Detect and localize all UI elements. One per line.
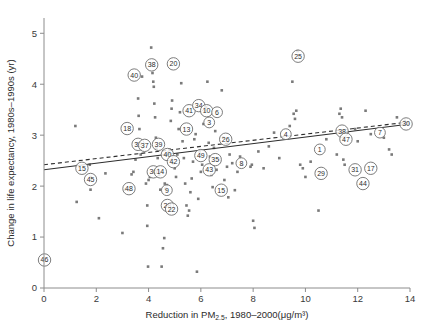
x-tick-label: 10 [300, 293, 311, 304]
data-point [292, 112, 295, 115]
label-text: 8 [239, 160, 243, 167]
data-point [160, 265, 163, 268]
labeled-data-point: 9 [161, 185, 172, 196]
data-point [288, 125, 291, 128]
labeled-data-point: 8 [236, 158, 247, 169]
x-tick-label: 2 [94, 293, 99, 304]
label-text: 15 [217, 187, 225, 194]
data-point [197, 198, 200, 201]
labeled-data-point: 48 [123, 182, 135, 194]
data-point [341, 116, 344, 119]
data-point [175, 176, 178, 179]
data-point [211, 186, 214, 189]
data-point [226, 165, 229, 168]
x-tick-label: 6 [198, 293, 203, 304]
label-text: 43 [205, 166, 213, 173]
data-point [188, 209, 191, 212]
data-point [251, 163, 254, 166]
data-point [189, 191, 192, 194]
data-point [121, 232, 124, 235]
plot-canvas: 4615451848403237383936144042928222013413… [0, 0, 421, 325]
data-point [147, 179, 150, 182]
y-tick-label: 0 [32, 282, 37, 293]
data-point [132, 171, 135, 174]
labeled-data-point: 14 [154, 166, 166, 178]
label-text: 45 [87, 176, 95, 183]
label-text: 15 [78, 165, 86, 172]
data-point [151, 72, 154, 75]
label-text: 46 [41, 256, 49, 263]
label-text: 20 [170, 60, 178, 67]
label-text: 30 [402, 120, 410, 127]
labeled-data-point: 18 [121, 122, 133, 134]
data-point [146, 204, 149, 207]
label-text: 49 [197, 152, 205, 159]
labeled-data-point: 30 [400, 118, 412, 130]
data-point [150, 46, 153, 49]
data-point [336, 153, 339, 156]
label-text: 4 [284, 131, 288, 138]
labeled-data-point: 4 [280, 129, 291, 140]
data-point [153, 102, 156, 105]
labeled-data-point: 13 [180, 123, 192, 135]
labeled-data-point: 42 [167, 155, 179, 167]
data-point [223, 179, 226, 182]
data-point [325, 138, 328, 141]
label-text: 14 [156, 168, 164, 175]
data-point [138, 128, 141, 131]
data-point [152, 80, 155, 83]
data-point [192, 160, 195, 163]
data-point [169, 120, 172, 123]
x-tick-label: 0 [41, 293, 46, 304]
data-point [388, 148, 391, 151]
label-text: 35 [211, 156, 219, 163]
data-point [186, 214, 189, 217]
data-point [177, 128, 180, 131]
x-axis-title: Reduction in PM2.5, 1980–2000(μg/m³) [146, 309, 309, 321]
y-tick-label: 4 [32, 79, 37, 90]
data-point [356, 140, 359, 143]
data-point [147, 265, 150, 268]
y-tick-label: 5 [32, 28, 37, 39]
label-text: 38 [148, 61, 156, 68]
label-text: 3 [207, 119, 211, 126]
data-point [231, 162, 234, 165]
label-text: 47 [342, 136, 350, 143]
labeled-data-point: 46 [38, 254, 50, 266]
labeled-data-point: 37 [138, 139, 150, 151]
labeled-data-point: 15 [215, 184, 227, 196]
data-point [200, 171, 203, 174]
x-tick-label: 8 [250, 293, 255, 304]
data-point [220, 89, 223, 92]
labeled-data-point: 29 [315, 167, 327, 179]
y-axis-title: Change in life expectancy, 1980s–1990s (… [5, 59, 16, 246]
data-point [309, 160, 312, 163]
data-point [190, 177, 193, 180]
data-point [74, 125, 77, 128]
data-point [154, 116, 157, 119]
label-text: 31 [351, 166, 359, 173]
label-text: 42 [170, 158, 178, 165]
data-point [98, 217, 101, 220]
data-point [89, 188, 92, 191]
label-text: 40 [130, 72, 138, 79]
data-point [291, 80, 294, 83]
data-point [75, 201, 78, 204]
y-tick-label: 2 [32, 181, 37, 192]
data-point [342, 158, 345, 161]
data-point [396, 116, 399, 119]
axes-layer [44, 18, 410, 288]
labeled-data-point: 39 [152, 138, 164, 150]
data-point [364, 109, 367, 112]
data-point [207, 142, 210, 145]
labeled-data-point: 25 [292, 50, 304, 62]
labeled-data-point: 31 [349, 164, 361, 176]
labeled-data-point: 20 [167, 58, 179, 70]
labeled-data-point: 45 [84, 173, 96, 185]
label-text: 37 [141, 142, 149, 149]
label-text: 25 [294, 53, 302, 60]
solid-regression [44, 124, 410, 170]
data-point [354, 128, 357, 131]
data-point [196, 270, 199, 273]
label-text: 18 [123, 125, 131, 132]
